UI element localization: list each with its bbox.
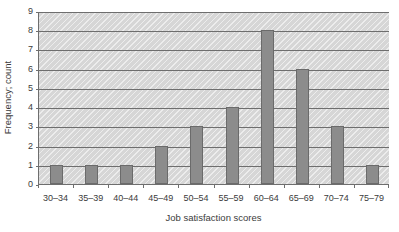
y-tick-label: 0 [7,180,33,189]
bar [366,165,379,184]
x-tick-label: 65–69 [284,192,319,204]
y-tick-mark [36,166,39,167]
y-tick-label: 9 [7,7,33,16]
x-tick-label: 50–54 [178,192,213,204]
x-tick-label: 55–59 [214,192,249,204]
bar [155,146,168,184]
x-tick-mark [143,185,144,188]
x-tick-mark [319,185,320,188]
y-tick-label: 7 [7,45,33,54]
x-axis-tick-marks [38,185,389,189]
bar [190,126,203,184]
y-tick-mark [36,31,39,32]
x-tick-label: 35–39 [73,192,108,204]
y-tick-mark [36,147,39,148]
x-tick-mark [73,185,74,188]
x-tick-mark [249,185,250,188]
x-axis-title: Job satisfaction scores [38,211,389,224]
y-tick-mark [36,89,39,90]
y-tick-mark [36,70,39,71]
bar [120,165,133,184]
bar [85,165,98,184]
plot-area [38,12,389,185]
y-axis-tick-labels: 0123456789 [0,12,33,185]
y-tick-label: 5 [7,84,33,93]
x-axis-tick-labels: 30–3435–3940–4445–4950–5455–5960–6465–69… [38,192,389,206]
gridline [39,89,389,90]
x-tick-mark [354,185,355,188]
y-tick-label: 2 [7,142,33,151]
y-tick-label: 1 [7,161,33,170]
gridline [39,12,389,13]
x-tick-label: 60–64 [249,192,284,204]
y-tick-mark [36,108,39,109]
y-tick-mark [36,50,39,51]
x-tick-label: 75–79 [354,192,389,204]
x-tick-mark [214,185,215,188]
x-tick-label: 70–74 [319,192,354,204]
y-tick-label: 8 [7,26,33,35]
y-tick-label: 6 [7,65,33,74]
y-tick-label: 4 [7,103,33,112]
y-tick-label: 3 [7,122,33,131]
y-tick-mark [36,127,39,128]
bar [296,69,309,184]
gridline [39,70,389,71]
bar [261,30,274,184]
gridline [39,108,389,109]
y-tick-mark [36,12,39,13]
chart-title: Skewed distribution [0,0,399,3]
bar [226,107,239,184]
gridline [39,50,389,51]
histogram-figure: Skewed distribution Frequency; count 012… [0,0,399,232]
x-tick-mark [178,185,179,188]
x-tick-mark [38,185,39,188]
bar [331,126,344,184]
gridline [39,31,389,32]
x-tick-mark [284,185,285,188]
x-tick-mark [108,185,109,188]
x-tick-mark [388,185,389,188]
x-tick-label: 30–34 [38,192,73,204]
bar [50,165,63,184]
x-tick-label: 45–49 [143,192,178,204]
x-tick-label: 40–44 [108,192,143,204]
